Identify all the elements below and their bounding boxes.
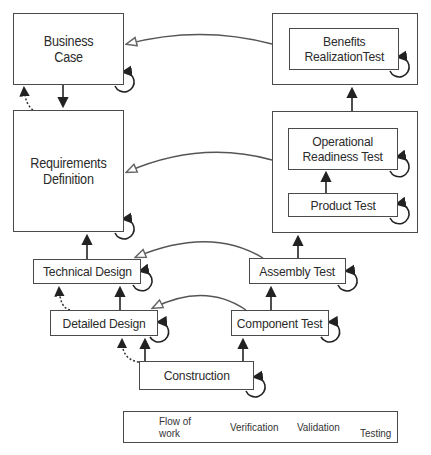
detailed-design-label: Detailed Design [62,316,145,331]
assembly-test-box: Assembly Test [249,258,346,284]
business-case-line1: Business [44,33,94,49]
operational-readiness-label: Operational Readiness Test [303,134,383,164]
legend-verification: Verification [230,422,278,433]
requirements-line2: Definition [30,171,106,187]
technical-design-label: Technical Design [43,264,132,279]
construction-label: Construction [163,368,229,383]
technical-design-box: Technical Design [33,259,141,284]
v-model-diagram: Business Case Requirements Definition Te… [0,0,431,455]
assembly-test-label: Assembly Test [260,264,336,279]
component-test-box: Component Test [231,310,329,336]
product-test-box: Product Test [288,193,398,217]
validation-icon [280,416,294,442]
benefits-realization-label: Benefits RealizationTest [304,34,384,64]
operational-readiness-line1: Operational [303,134,383,149]
business-case-line2: Case [44,49,94,65]
product-test-label: Product Test [310,198,375,213]
benefits-realization-line1: Benefits [304,34,384,49]
requirements-definition-label: Requirements Definition [30,155,106,187]
legend-validation: Validation [297,422,340,433]
business-case-label: Business Case [44,33,94,65]
legend-flow-of-work-line1: Flow of [159,416,191,427]
component-test-label: Component Test [237,316,323,331]
benefits-realization-line2: RealizationTest [304,49,384,64]
testing-icon [343,414,373,432]
requirements-line1: Requirements [30,155,106,171]
business-case-box: Business Case [13,13,124,85]
construction-box: Construction [139,361,254,390]
operational-readiness-line2: Readiness Test [303,149,383,164]
verification-icon [195,417,215,439]
flow-of-work-icon [130,417,148,439]
detailed-design-box: Detailed Design [50,310,158,336]
operational-readiness-test-box: Operational Readiness Test [288,128,398,170]
legend-flow-of-work-line2: work [159,428,180,439]
benefits-realization-test-box: Benefits RealizationTest [289,28,399,70]
requirements-definition-box: Requirements Definition [13,110,124,232]
